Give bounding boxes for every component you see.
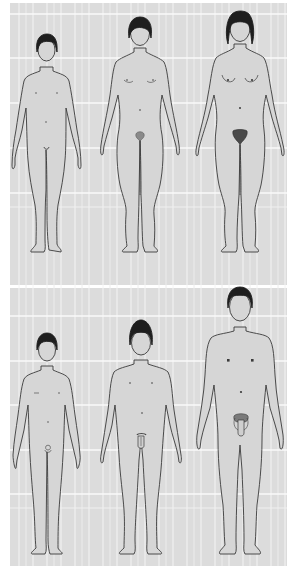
navel (239, 107, 241, 109)
navel (45, 121, 46, 122)
navel (240, 391, 242, 393)
nipple-right (152, 79, 154, 81)
nipple-left (227, 359, 230, 362)
head (132, 331, 151, 355)
nipple-right (58, 392, 59, 393)
navel (141, 412, 143, 414)
genitals-adult (238, 420, 244, 436)
nipple-left (126, 79, 128, 81)
diagram-canvas (0, 0, 294, 574)
head (230, 293, 251, 321)
nipple-left (129, 382, 131, 384)
navel (47, 421, 48, 422)
pubertal-development-diagram (0, 0, 294, 574)
nipple-right (56, 92, 57, 93)
nipple-right (251, 359, 254, 362)
nipple-right (151, 382, 153, 384)
nipple-right (251, 79, 253, 81)
genitals-prepubertal (45, 445, 51, 452)
nipple-left (35, 92, 36, 93)
nipple-left (227, 79, 229, 81)
navel (139, 109, 141, 111)
